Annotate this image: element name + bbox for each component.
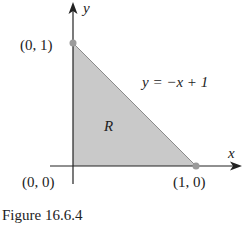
point-label-0-1: (0, 1) [20, 38, 53, 53]
figure-16-6-4: y x (0, 1) (0, 0) (1, 0) R y = −x + 1 Fi… [0, 0, 250, 229]
plot-svg [0, 0, 250, 229]
y-axis-label: y [83, 1, 90, 16]
region-label: R [104, 119, 113, 134]
x-axis-label: x [228, 146, 235, 161]
equation-label: y = −x + 1 [142, 75, 208, 90]
point-label-1-0: (1, 0) [173, 175, 206, 190]
point-1-0 [193, 163, 200, 170]
point-label-0-0: (0, 0) [22, 175, 55, 190]
point-0-1 [70, 40, 77, 47]
figure-caption: Figure 16.6.4 [2, 208, 82, 223]
